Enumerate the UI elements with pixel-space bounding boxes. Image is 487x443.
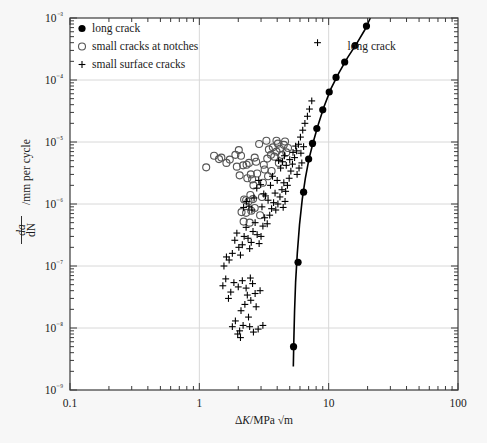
x-axis-label: ΔK/MPa √m	[235, 414, 293, 426]
legend-label: long crack	[92, 22, 140, 35]
legend-marker-filled-circle	[78, 25, 85, 32]
x-tick-label: 10	[323, 397, 335, 409]
chart-annotations: long crack	[348, 40, 396, 53]
annotation-long-crack: long crack	[348, 40, 396, 53]
legend-label: small cracks at notches	[92, 40, 199, 52]
x-tick-label: 0.1	[63, 397, 78, 409]
figure-container: 0.111010010⁻³10⁻⁴10⁻⁵10⁻⁶10⁻⁷10⁻⁸10⁻⁹ lo…	[0, 0, 487, 443]
svg-text:ΔK/MPa √m: ΔK/MPa √m	[235, 414, 293, 426]
x-tick-label: 100	[449, 397, 467, 409]
svg-text:/mm per cycle: /mm per cycle	[20, 139, 33, 205]
x-tick-label: 1	[196, 397, 202, 409]
marker-filled-circle	[294, 259, 301, 266]
legend-label: small surface cracks	[92, 58, 186, 70]
svg-text:dN: dN	[25, 222, 37, 237]
fatigue-crack-growth-chart: 0.111010010⁻³10⁻⁴10⁻⁵10⁻⁶10⁻⁷10⁻⁸10⁻⁹ lo…	[0, 0, 487, 443]
